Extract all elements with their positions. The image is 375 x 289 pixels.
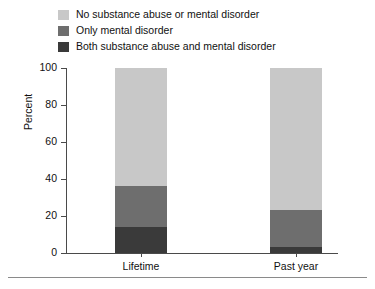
legend-item-both-substance-abuse-and-mental-disorder: Both substance abuse and mental disorder: [58, 39, 358, 54]
footer-divider: [8, 277, 367, 278]
y-axis-tick-label: 0: [51, 246, 57, 259]
y-axis-tick: 80: [61, 105, 66, 106]
chart-legend: No substance abuse or mental disorder On…: [58, 7, 358, 55]
legend-item-label: Only mental disorder: [76, 25, 173, 36]
bar-segment-no-substance-abuse-or-mental-disorder: [270, 68, 322, 210]
y-axis-tick-label: 40: [45, 172, 57, 185]
bar-segment-both-substance-abuse-and-mental-disorder: [115, 227, 167, 253]
stacked-bar-chart-figure: No substance abuse or mental disorder On…: [0, 0, 375, 289]
legend-swatch-icon: [58, 42, 69, 52]
y-axis-tick-label: 20: [45, 209, 57, 222]
legend-swatch-icon: [58, 10, 69, 20]
y-axis-line: [66, 68, 67, 253]
bar-segment-only-mental-disorder: [115, 186, 167, 227]
y-axis-tick-label: 100: [39, 61, 57, 74]
x-axis-label-lifetime: Lifetime: [123, 260, 160, 273]
legend-item-label: Both substance abuse and mental disorder: [76, 41, 276, 52]
bar-segment-only-mental-disorder: [270, 210, 322, 247]
legend-item-no-substance-abuse-or-mental-disorder: No substance abuse or mental disorder: [58, 7, 358, 22]
legend-item-only-mental-disorder: Only mental disorder: [58, 23, 358, 38]
bar-lifetime: [115, 68, 167, 253]
x-axis-tick: [141, 253, 142, 257]
x-axis-line: [66, 253, 338, 254]
bar-segment-no-substance-abuse-or-mental-disorder: [115, 68, 167, 186]
legend-swatch-icon: [58, 26, 69, 36]
x-axis-label-past-year: Past year: [274, 260, 318, 273]
legend-item-label: No substance abuse or mental disorder: [76, 9, 259, 20]
y-axis-tick: 100: [61, 68, 66, 69]
x-axis-tick: [296, 253, 297, 257]
y-axis-tick-label: 60: [45, 135, 57, 148]
bar-past-year: [270, 68, 322, 253]
y-axis-tick-label: 80: [45, 98, 57, 111]
y-axis-title: Percent: [22, 94, 34, 130]
plot-area: 100 80 60 40 20 0 Lifetim: [66, 68, 338, 253]
y-axis-tick: 0: [61, 253, 66, 254]
y-axis-tick: 60: [61, 142, 66, 143]
y-axis-tick: 20: [61, 216, 66, 217]
y-axis-tick: 40: [61, 179, 66, 180]
